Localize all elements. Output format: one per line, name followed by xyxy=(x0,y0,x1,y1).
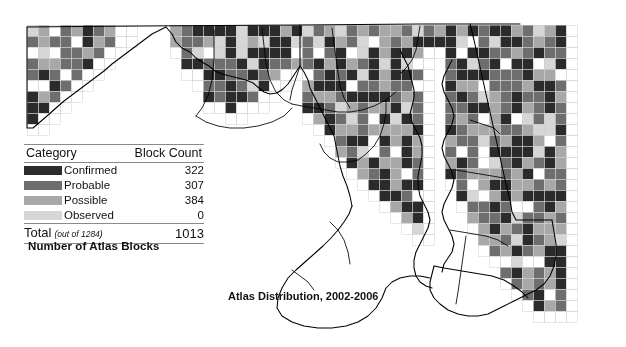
legend-header-count: Block Count xyxy=(125,145,204,163)
map-caption: Atlas Distribution, 2002-2006 xyxy=(228,290,378,302)
legend-label-possible: Possible xyxy=(64,193,125,208)
legend-total-paren: (out of 1284) xyxy=(51,229,102,239)
legend-header-category: Category xyxy=(24,145,125,163)
legend-row-observed: Observed 0 xyxy=(24,208,204,224)
legend-header-row: Category Block Count xyxy=(24,145,204,163)
legend-row-probable: Probable 307 xyxy=(24,178,204,193)
legend-row-confirmed: Confirmed 322 xyxy=(24,163,204,179)
legend-panel: Category Block Count Confirmed 322 Proba… xyxy=(24,144,204,244)
figure-root: Category Block Count Confirmed 322 Proba… xyxy=(0,0,626,347)
legend-caption: Number of Atlas Blocks xyxy=(28,240,160,252)
legend-count-observed: 0 xyxy=(125,208,204,224)
legend-swatch-confirmed xyxy=(24,163,64,179)
legend-row-possible: Possible 384 xyxy=(24,193,204,208)
legend-count-confirmed: 322 xyxy=(125,163,204,179)
legend-label-probable: Probable xyxy=(64,178,125,193)
legend-table: Category Block Count Confirmed 322 Proba… xyxy=(24,144,204,244)
legend-count-possible: 384 xyxy=(125,193,204,208)
legend-total-word: Total xyxy=(24,225,51,240)
legend-swatch-probable xyxy=(24,178,64,193)
legend-count-probable: 307 xyxy=(125,178,204,193)
legend-label-confirmed: Confirmed xyxy=(64,163,125,179)
legend-swatch-observed xyxy=(24,208,64,224)
legend-swatch-possible xyxy=(24,193,64,208)
legend-label-observed: Observed xyxy=(64,208,125,224)
